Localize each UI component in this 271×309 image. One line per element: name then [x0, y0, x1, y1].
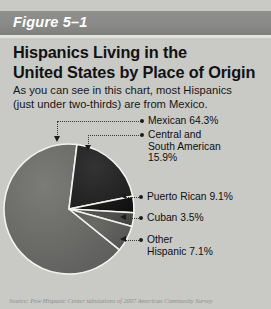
dot-marker-puerto-rican	[139, 195, 143, 199]
callout-other-line-1: Other	[147, 234, 213, 246]
bar-underline-divider	[0, 35, 271, 38]
source-note: Source: Pew Hispanic Center tabulations …	[9, 297, 267, 305]
pie-slices-svg	[2, 139, 136, 279]
dot-marker-mexican	[140, 119, 144, 123]
deck-line-1: As you can see in this chart, most Hispa…	[13, 84, 265, 98]
figure-container: Figure 5–1 Hispanics Living in the Unite…	[0, 0, 271, 309]
callout-cuban-line-1: Cuban 3.5%	[147, 212, 204, 224]
figure-number-bar: Figure 5–1	[0, 11, 271, 35]
pie-chart-stage: Mexican 64.3% Central and South American…	[0, 108, 271, 293]
dot-marker-other-hispanic	[139, 238, 143, 242]
arrow-marker-mexican	[54, 136, 60, 142]
headline-line-2: United States by Place of Origin	[13, 63, 263, 83]
figure-number-label: Figure 5–1	[13, 14, 88, 30]
callout-csa-line-1: Central and	[148, 129, 221, 141]
dot-marker-cuban	[139, 216, 143, 220]
leader-line-cuban	[126, 218, 139, 219]
callout-mexican-line-1: Mexican 64.3%	[148, 115, 218, 127]
leader-line-other-hispanic	[126, 240, 139, 241]
callout-cuban: Cuban 3.5%	[147, 212, 204, 224]
leader-line-mexican	[57, 121, 141, 122]
leader-drop-mexican	[57, 121, 58, 137]
callout-other-line-2: Hispanic 7.1%	[147, 246, 213, 258]
dot-marker-central-south-american	[140, 133, 144, 137]
callout-csa-line-2: South American	[148, 141, 221, 153]
leader-line-puerto-rican	[126, 197, 139, 198]
callout-other-hispanic: Other Hispanic 7.1%	[147, 234, 213, 257]
callout-puerto-rican-line-1: Puerto Rican 9.1%	[147, 191, 233, 203]
callout-central-south-american: Central and South American 15.9%	[148, 129, 221, 164]
callout-csa-line-3: 15.9%	[148, 152, 221, 164]
pie-chart	[2, 139, 136, 279]
headline-line-1: Hispanics Living in the	[13, 43, 263, 63]
callout-puerto-rican: Puerto Rican 9.1%	[147, 191, 233, 203]
callout-mexican: Mexican 64.3%	[148, 115, 218, 127]
figure-headline: Hispanics Living in the United States by…	[13, 43, 263, 82]
leader-line-central-south-american	[88, 135, 141, 136]
arrow-marker-central-south-american	[85, 145, 91, 151]
